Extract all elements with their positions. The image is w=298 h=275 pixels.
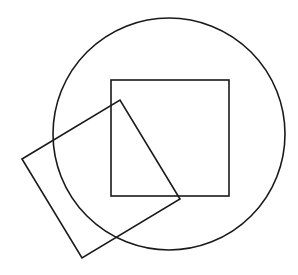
- large-circle: [53, 18, 285, 250]
- geometry-diagram: [0, 0, 298, 275]
- rotated-square: [22, 100, 180, 258]
- axis-aligned-square: [111, 80, 229, 196]
- diagram-canvas: [0, 0, 298, 275]
